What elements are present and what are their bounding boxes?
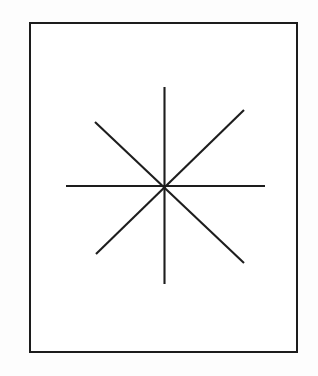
figure-root: Eight-spoke star figure A rectangular fr…	[0, 0, 318, 376]
figure-canvas	[0, 0, 318, 376]
